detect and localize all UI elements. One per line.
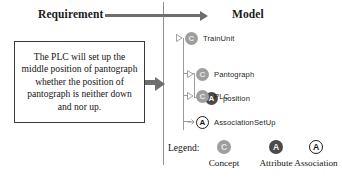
legend: Legend: C Concept A Attribute A Associat… [168, 138, 342, 178]
legend-caption: Association [294, 158, 337, 168]
tree-node-label: TrainUnit [203, 34, 234, 43]
model-column-heading: Model [232, 8, 264, 20]
tree-node-label: Pantograph [214, 70, 254, 79]
legend-title: Legend: [168, 142, 199, 153]
chevron-expander-icon[interactable] [176, 34, 183, 42]
tree-node-trainunit[interactable]: C TrainUnit [176, 30, 234, 46]
association-icon: A [196, 116, 209, 129]
top-arrow-shaft [105, 14, 203, 17]
requirement-to-model-diagram: Requirement Model The PLC will set up th… [0, 0, 342, 181]
legend-item-association: A Association [290, 140, 342, 168]
concept-icon: C [196, 90, 209, 103]
tree-node-label: PLC [214, 92, 229, 101]
concept-icon: C [185, 32, 198, 45]
top-arrow-right-icon [200, 11, 208, 21]
tree-node-label: AssociationSetUp [214, 118, 276, 127]
tree-connector-trunk [183, 38, 184, 130]
concept-icon: C [196, 68, 209, 81]
model-tree: C TrainUnit C Pantograph A position [176, 26, 342, 126]
tree-node-plc[interactable]: C PLC [187, 88, 229, 104]
legend-caption: Concept [209, 158, 240, 168]
chevron-expander-icon[interactable] [187, 92, 194, 100]
legend-caption: Attribute [259, 158, 292, 168]
chevron-expander-icon[interactable] [187, 118, 194, 126]
requirement-column-heading: Requirement [38, 8, 103, 20]
concept-icon: C [217, 140, 231, 154]
tree-node-associationsetup[interactable]: A AssociationSetUp [187, 114, 276, 130]
requirement-text: The PLC will set up the middle position … [15, 51, 144, 113]
middle-arrow-right-icon [155, 77, 165, 91]
legend-item-concept: C Concept [198, 140, 250, 168]
requirement-text-box: The PLC will set up the middle position … [14, 41, 145, 123]
tree-node-pantograph[interactable]: C Pantograph [187, 66, 254, 82]
attribute-icon: A [269, 140, 283, 154]
chevron-expander-icon[interactable] [187, 70, 194, 78]
association-icon: A [309, 140, 323, 154]
